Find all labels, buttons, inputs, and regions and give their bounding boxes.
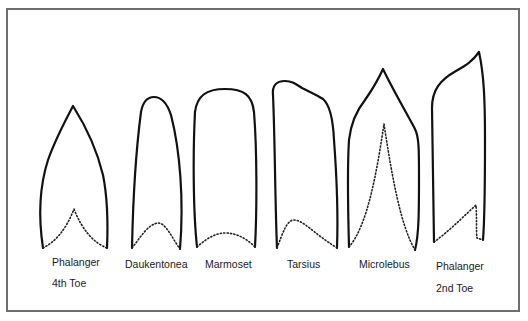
- phalanger-4th-outline: [40, 106, 107, 248]
- sublabel-phalanger-2nd: 2nd Toe: [436, 282, 473, 294]
- phalanger-4th-dotted-line: [43, 209, 107, 248]
- daukentonea-dotted-line: [132, 223, 180, 249]
- daukentonea-outline: [132, 97, 182, 249]
- marmoset-dotted-line: [197, 233, 255, 247]
- label-tarsius: Tarsius: [287, 258, 320, 270]
- sublabel-phalanger-4th: 4th Toe: [52, 277, 86, 289]
- label-phalanger-2nd: Phalanger: [436, 260, 484, 272]
- microlebus-outline: [348, 69, 419, 250]
- label-phalanger-4th: Phalanger: [52, 256, 100, 268]
- tarsius-outline: [273, 81, 338, 248]
- microlebus-dotted-line: [349, 124, 415, 250]
- phalanger-2nd-dotted-line: [434, 205, 483, 242]
- label-marmoset: Marmoset: [205, 258, 252, 270]
- claw-outlines: [0, 0, 528, 321]
- marmoset-outline: [194, 89, 257, 247]
- tarsius-dotted-line: [277, 220, 337, 248]
- label-daukentonea: Daukentonea: [125, 258, 187, 270]
- label-microlebus: Microlebus: [359, 258, 410, 270]
